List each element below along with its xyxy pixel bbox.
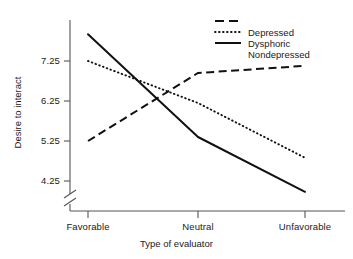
y-tick-label-4-25: 4.25 xyxy=(18,175,60,186)
legend: Depressed Dysphoric Nondepressed xyxy=(212,12,352,54)
x-tick-label-unfavorable: Unfavorable xyxy=(255,221,353,232)
legend-label-depressed: Depressed xyxy=(248,27,294,38)
x-tick-label-favorable: Favorable xyxy=(38,221,138,232)
x-tick-label-neutral: Neutral xyxy=(148,221,248,232)
series-line-dysphoric xyxy=(88,61,305,158)
y-tick-label-7-25: 7.25 xyxy=(18,55,60,66)
y-axis-title: Desire to interact xyxy=(12,33,23,193)
y-tick-label-5-25: 5.25 xyxy=(18,135,60,146)
y-tick-label-6-25: 6.25 xyxy=(18,95,60,106)
legend-label-dysphoric: Dysphoric xyxy=(248,38,290,49)
x-axis-title: Type of evaluator xyxy=(0,238,353,249)
legend-label-nondepressed: Nondepressed xyxy=(248,49,310,60)
chart-figure: 7.25 6.25 5.25 4.25 Favorable Neutral Un… xyxy=(0,0,353,259)
